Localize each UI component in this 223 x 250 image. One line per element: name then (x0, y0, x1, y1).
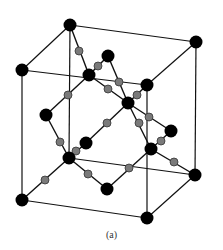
small-atom (56, 138, 64, 146)
small-atom (157, 137, 165, 145)
large-atom (189, 169, 202, 182)
small-atom (170, 158, 178, 166)
large-atom (190, 36, 203, 49)
large-atom (64, 19, 77, 32)
small-atom (64, 91, 72, 99)
cube-edge (147, 175, 195, 218)
large-atom (101, 183, 114, 196)
small-atom (145, 113, 153, 121)
small-atom (115, 78, 123, 86)
large-atom (16, 64, 29, 77)
large-atom (141, 212, 154, 225)
small-atom (133, 91, 141, 99)
small-atom (135, 119, 143, 127)
large-atom (80, 137, 93, 150)
cube-edge (195, 42, 196, 175)
large-atom (63, 152, 76, 165)
cube-edge (22, 25, 70, 70)
large-atom (122, 97, 135, 110)
bond-line (46, 115, 69, 158)
large-atom (145, 143, 158, 156)
large-atom (141, 79, 154, 92)
cube-edge (70, 25, 196, 42)
small-atom (84, 170, 92, 178)
large-atom (40, 109, 53, 122)
cube-edge (22, 200, 147, 218)
small-atom (103, 119, 111, 127)
cube-edge (147, 42, 196, 85)
small-atom (75, 47, 83, 55)
large-atom (16, 194, 29, 207)
small-atom (41, 176, 49, 184)
large-atom (102, 50, 115, 63)
diamond-cubic-unit-cell-diagram (0, 0, 223, 250)
figure-caption: (a) (0, 229, 223, 240)
small-atom (125, 164, 133, 172)
large-atom (83, 69, 96, 82)
small-atom (104, 85, 112, 93)
large-atom (165, 125, 178, 138)
small-atom (94, 62, 102, 70)
